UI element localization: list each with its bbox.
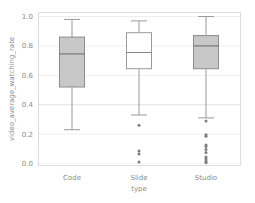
y-tick-label-0-8: 0.8 bbox=[22, 42, 33, 50]
x-axis-title: type bbox=[131, 185, 147, 193]
box-studio bbox=[194, 36, 219, 69]
outlier-point bbox=[205, 151, 208, 154]
y-tick-label-0-4: 0.4 bbox=[22, 101, 34, 109]
outlier-point bbox=[205, 135, 208, 138]
boxplot-svg: 1.0 0.8 0.6 0.4 0.2 0.0 video_average_wa… bbox=[0, 0, 255, 203]
outlier-point bbox=[205, 119, 208, 122]
y-tick-label-0-6: 0.6 bbox=[22, 72, 34, 80]
outlier-point bbox=[138, 161, 141, 164]
outlier-point bbox=[138, 152, 141, 155]
outlier-point bbox=[205, 145, 208, 148]
outlier-point bbox=[138, 124, 141, 127]
x-tick-label-slide: Slide bbox=[130, 174, 147, 182]
x-tick-label-studio: Studio bbox=[195, 174, 217, 182]
y-tick-label-1-0: 1.0 bbox=[22, 13, 33, 21]
outlier-point bbox=[205, 161, 208, 164]
y-tick-label-0-0: 0.0 bbox=[22, 160, 33, 168]
box-code bbox=[60, 37, 85, 87]
outlier-point bbox=[205, 148, 208, 151]
box-slide bbox=[127, 33, 152, 69]
y-axis-title: video_average_watching_rate bbox=[8, 37, 16, 141]
x-tick-label-code: Code bbox=[63, 174, 81, 182]
outlier-point bbox=[138, 150, 141, 153]
boxplot-figure: 1.0 0.8 0.6 0.4 0.2 0.0 video_average_wa… bbox=[0, 0, 255, 203]
y-tick-label-0-2: 0.2 bbox=[22, 131, 33, 139]
